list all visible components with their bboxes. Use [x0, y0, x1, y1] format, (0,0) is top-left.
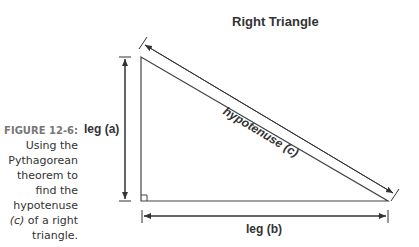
hypotenuse-dimension — [139, 37, 399, 201]
leg-b-label: leg (b) — [246, 222, 282, 236]
triangle-diagram — [0, 0, 419, 247]
leg-a-dimension — [119, 57, 131, 201]
leg-a-label: leg (a) — [84, 122, 119, 136]
right-angle-marker — [141, 195, 147, 201]
